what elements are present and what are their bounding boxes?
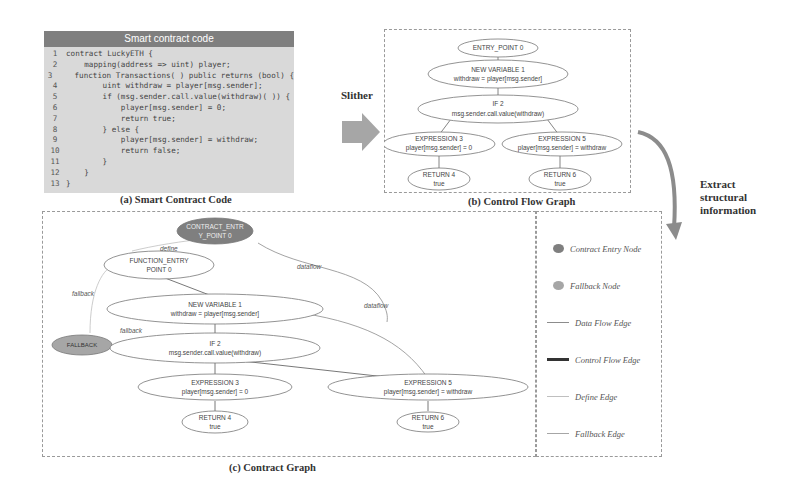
legend-box: Contract Entry Node Fallback Node Data F… <box>536 211 662 457</box>
edge-label-define: define <box>160 245 178 252</box>
cfg-node-if-title: IF 2 <box>492 100 504 107</box>
code-line: 10 return false; <box>44 146 294 157</box>
line-number: 5 <box>44 92 66 103</box>
cfg-node-expr5-expr: player[msg.sender] = withdraw <box>518 144 607 152</box>
code-line: 5 if (msg.sender.call.value(withdraw)( )… <box>44 92 294 103</box>
define-edge-icon <box>547 396 569 398</box>
edge-label-dataflow: dataflow <box>297 263 323 270</box>
cg-node-func-entry-title2: POINT 0 <box>146 266 172 273</box>
line-number: 6 <box>44 103 66 114</box>
code-line: 8 } else { <box>44 125 294 136</box>
cg-node-newvar-title: NEW VARIABLE 1 <box>188 301 242 308</box>
code-line: 13} <box>44 179 294 190</box>
code-line: 6 player[msg.sender] = 0; <box>44 103 294 114</box>
contract-graph: CONTRACT_ENTR Y_POINT 0 FALLBACK FUNCTIO… <box>42 211 536 459</box>
fallback-node-icon <box>553 281 564 290</box>
extract-label-line: information <box>700 204 756 217</box>
legend-label: Control Flow Edge <box>575 355 640 365</box>
legend-item-define-edge: Define Edge <box>547 378 661 415</box>
cg-node-expr5-expr: player[msg.sender] = withdraw <box>384 388 473 396</box>
line-number: 3 <box>44 71 56 82</box>
cg-node-contract-entry-title2: Y_POINT 0 <box>198 232 232 240</box>
edge-label-fallback: fallback <box>120 327 143 334</box>
code-text: player[msg.sender] = 0; <box>66 103 226 114</box>
line-number: 13 <box>44 179 66 190</box>
code-line: 1contract LuckyETH { <box>44 49 294 60</box>
right-arrow-icon <box>340 112 382 152</box>
extract-label-line: Extract <box>700 178 756 191</box>
code-text: mapping(address => uint) player; <box>66 60 231 71</box>
cg-node-ret6-title: RETURN 6 <box>412 414 445 421</box>
cfg-node-ret6-value: true <box>554 180 566 187</box>
code-text: } <box>66 157 107 168</box>
contract-entry-node-icon <box>553 244 564 253</box>
code-text: return true; <box>66 114 176 125</box>
line-number: 8 <box>44 125 66 136</box>
code-lines: 1contract LuckyETH { 2 mapping(address =… <box>44 47 294 189</box>
legend-label: Fallback Node <box>570 281 620 291</box>
code-line: 3 function Transactions( ) public return… <box>44 71 294 82</box>
slither-label: Slither <box>341 89 373 101</box>
line-number: 7 <box>44 114 66 125</box>
extract-label: Extract structural information <box>700 178 756 217</box>
code-panel-header: Smart contract code <box>44 31 294 47</box>
legend-label: Define Edge <box>575 392 617 402</box>
line-number: 11 <box>44 157 66 168</box>
legend-label: Contract Entry Node <box>570 244 641 254</box>
legend-item-contract-entry-node: Contract Entry Node <box>553 230 661 267</box>
code-text: } <box>66 168 89 179</box>
cg-node-newvar-expr: withdraw = player[msg.sender] <box>170 310 260 318</box>
cfg-node-ret4-value: true <box>433 180 445 187</box>
code-text: if (msg.sender.call.value(withdraw)( )) … <box>66 92 290 103</box>
cfg-node-expr3-title: EXPRESSION 3 <box>415 135 463 142</box>
cg-node-fallback: FALLBACK <box>67 342 97 348</box>
cfg-node-if-expr: msg.sender.call.value(withdraw) <box>452 110 544 118</box>
data-flow-edge-icon <box>547 322 569 324</box>
cfg-node-expr3-expr: player[msg.sender] = 0 <box>406 144 473 152</box>
cfg-node-entry: ENTRY_POINT 0 <box>473 44 524 52</box>
control-flow-edge-icon <box>547 358 569 361</box>
code-text: } else { <box>66 125 139 136</box>
legend-item-data-flow-edge: Data Flow Edge <box>547 304 661 341</box>
fallback-edge-icon <box>547 433 569 435</box>
legend-item-fallback-node: Fallback Node <box>553 267 661 304</box>
legend-label: Fallback Edge <box>575 429 625 439</box>
line-number: 2 <box>44 60 66 71</box>
cg-node-if-title: IF 2 <box>209 340 221 347</box>
cfg-node-newvar-title: NEW VARIABLE 1 <box>471 66 525 73</box>
extract-label-line: structural <box>700 191 756 204</box>
cg-node-expr3-title: EXPRESSION 3 <box>191 379 239 386</box>
code-line: 4 uint withdraw = player[msg.sender]; <box>44 81 294 92</box>
cg-node-contract-entry-title: CONTRACT_ENTR <box>186 223 244 231</box>
cg-node-ret4-title: RETURN 4 <box>199 414 232 421</box>
code-text: contract LuckyETH { <box>66 49 153 60</box>
cfg-node-newvar-expr: withdraw = player[msg.sender] <box>453 75 543 83</box>
edge-label-fallback: fallback <box>72 290 95 297</box>
edge-label-dataflow: dataflow <box>364 302 390 309</box>
code-text: return false; <box>66 146 180 157</box>
line-number: 1 <box>44 49 66 60</box>
legend-label: Data Flow Edge <box>575 318 631 328</box>
code-line: 2 mapping(address => uint) player; <box>44 60 294 71</box>
code-text: } <box>66 179 71 190</box>
cg-node-func-entry-title: FUNCTION_ENTRY <box>129 257 189 265</box>
cg-node-ret4-value: true <box>209 423 221 430</box>
code-line: 9 player[msg.sender] = withdraw; <box>44 135 294 146</box>
cg-node-ret6-value: true <box>422 423 434 430</box>
line-number: 12 <box>44 168 66 179</box>
line-number: 10 <box>44 146 66 157</box>
control-flow-graph: ENTRY_POINT 0 NEW VARIABLE 1 withdraw = … <box>384 29 634 195</box>
code-line: 12 } <box>44 168 294 179</box>
line-number: 4 <box>44 81 66 92</box>
cfg-node-expr5-title: EXPRESSION 5 <box>538 135 586 142</box>
cg-node-expr5-title: EXPRESSION 5 <box>404 379 452 386</box>
code-text: uint withdraw = player[msg.sender]; <box>66 81 263 92</box>
cg-node-expr3-expr: player[msg.sender] = 0 <box>182 388 249 396</box>
code-panel: Smart contract code 1contract LuckyETH {… <box>44 31 294 193</box>
cg-node-if-expr: msg.sender.call.value(withdraw) <box>169 349 261 357</box>
line-number: 9 <box>44 135 66 146</box>
code-text: function Transactions( ) public returns … <box>56 71 294 82</box>
code-text: player[msg.sender] = withdraw; <box>66 135 258 146</box>
legend-item-control-flow-edge: Control Flow Edge <box>547 341 661 378</box>
legend-item-fallback-edge: Fallback Edge <box>547 415 661 452</box>
